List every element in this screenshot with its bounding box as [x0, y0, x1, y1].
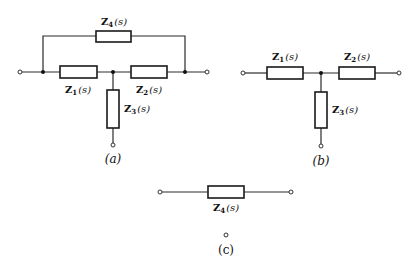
junction-node — [319, 71, 323, 75]
panel-caption-c: (c) — [218, 243, 234, 257]
impedance-label-z4: Z4(s) — [213, 202, 239, 215]
impedance-z2-box — [339, 67, 375, 79]
panel-c: Z4(s) (c) — [158, 186, 293, 257]
impedance-label-z1: Z1(s) — [272, 51, 298, 64]
terminal — [319, 144, 323, 148]
terminal — [224, 233, 228, 237]
panel-caption-b: (b) — [312, 154, 329, 168]
terminal — [111, 143, 115, 147]
impedance-z3-box — [107, 90, 119, 128]
panel-a: Z4(s) Z1(s) Z2(s) Z3(s) (a) — [18, 16, 209, 166]
junction-node — [41, 70, 45, 74]
terminal — [205, 70, 209, 74]
impedance-z4-box — [96, 31, 131, 42]
impedance-label-z1: Z1(s) — [65, 84, 91, 97]
terminal — [241, 71, 245, 75]
impedance-label-z3: Z3(s) — [124, 103, 150, 116]
impedance-z2-box — [131, 66, 167, 78]
circuit-figure: Z4(s) Z1(s) Z2(s) Z3(s) (a) Z1(s) Z2(s) … — [0, 0, 418, 271]
junction-node — [183, 70, 187, 74]
panel-b: Z1(s) Z2(s) Z3(s) (b) — [241, 51, 401, 168]
impedance-label-z2: Z2(s) — [344, 51, 370, 64]
terminal — [397, 71, 401, 75]
terminal — [18, 70, 22, 74]
impedance-z1-box — [267, 67, 303, 79]
impedance-z4-box — [208, 186, 244, 198]
panel-caption-a: (a) — [105, 152, 122, 166]
impedance-label-z3: Z3(s) — [332, 104, 358, 117]
terminal — [158, 190, 162, 194]
junction-node — [111, 70, 115, 74]
terminal — [289, 190, 293, 194]
impedance-z1-box — [60, 66, 97, 78]
impedance-label-z4: Z4(s) — [101, 16, 127, 29]
impedance-label-z2: Z2(s) — [136, 84, 162, 97]
impedance-z3-box — [315, 92, 327, 128]
